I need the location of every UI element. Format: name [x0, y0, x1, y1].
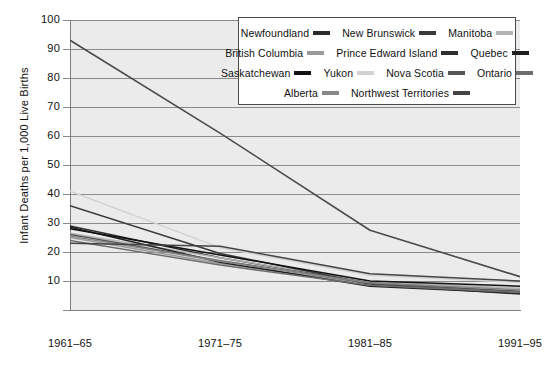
legend-color-swatch: [313, 31, 330, 35]
y-tick-label: 80: [26, 72, 60, 83]
legend-color-swatch: [322, 91, 339, 95]
legend-color-swatch: [496, 31, 513, 35]
y-tick-mark: [63, 107, 70, 108]
y-tick-mark: [63, 78, 70, 79]
y-tick: 100: [16, 14, 60, 25]
y-tick: 10: [16, 275, 60, 286]
legend-item-label: Yukon: [323, 68, 353, 79]
y-tick-mark: [63, 49, 70, 50]
y-tick-label: 50: [26, 159, 60, 170]
y-tick-mark: [63, 310, 70, 311]
legend-item: Alberta: [284, 88, 339, 99]
legend-color-swatch: [357, 71, 374, 75]
x-tick-label: 1981–85: [325, 338, 415, 349]
legend-item: Yukon: [323, 68, 374, 79]
legend-item-label: British Columbia: [225, 48, 303, 59]
legend-item: British Columbia: [225, 48, 324, 59]
legend-item-label: Newfoundland: [241, 28, 309, 39]
y-tick-mark: [63, 20, 70, 21]
legend-item-label: Alberta: [284, 88, 318, 99]
y-tick-label: 20: [26, 246, 60, 257]
x-tick-label: 1961–65: [25, 338, 115, 349]
y-tick-label: 100: [26, 14, 60, 25]
y-tick-mark: [63, 281, 70, 282]
legend-row: AlbertaNorthwest Territories: [246, 83, 508, 103]
y-tick-mark: [63, 165, 70, 166]
legend-item: Ontario: [477, 68, 533, 79]
legend-item-label: Prince Edward Island: [336, 48, 437, 59]
legend-item-label: Quebec: [470, 48, 507, 59]
legend-item: Northwest Territories: [351, 88, 470, 99]
legend-color-swatch: [453, 91, 470, 95]
chart-legend: NewfoundlandNew BrunswickManitobaBritish…: [238, 17, 516, 105]
y-axis-title: Infant Deaths per 1,000 Live Births: [19, 46, 30, 266]
infant-mortality-line-chart: 100908070605040302010 1961–651971–751981…: [0, 0, 551, 375]
legend-item: Prince Edward Island: [336, 48, 458, 59]
legend-item-label: Ontario: [477, 68, 512, 79]
y-tick-mark: [63, 223, 70, 224]
legend-item: Saskatchewan: [221, 68, 312, 79]
legend-color-swatch: [419, 31, 436, 35]
legend-item: Quebec: [470, 48, 528, 59]
legend-item-label: New Brunswick: [342, 28, 415, 39]
y-tick-label: 90: [26, 43, 60, 54]
y-tick-label: 60: [26, 130, 60, 141]
y-tick-label: 40: [26, 188, 60, 199]
legend-item-label: Saskatchewan: [221, 68, 291, 79]
legend-row: NewfoundlandNew BrunswickManitoba: [246, 23, 508, 43]
legend-item-label: Northwest Territories: [351, 88, 449, 99]
legend-row: SaskatchewanYukonNova ScotiaOntario: [246, 63, 508, 83]
y-tick-label: 70: [26, 101, 60, 112]
legend-color-swatch: [307, 51, 324, 55]
y-tick-label: 30: [26, 217, 60, 228]
legend-item-label: Manitoba: [448, 28, 492, 39]
legend-item: Newfoundland: [241, 28, 330, 39]
y-tick-mark: [63, 136, 70, 137]
y-tick-mark: [63, 252, 70, 253]
x-tick-label: 1991–95: [475, 338, 551, 349]
y-tick-mark: [63, 194, 70, 195]
legend-item: Manitoba: [448, 28, 513, 39]
legend-item: Nova Scotia: [386, 68, 465, 79]
legend-row: British ColumbiaPrince Edward IslandQueb…: [246, 43, 508, 63]
legend-color-swatch: [448, 71, 465, 75]
legend-color-swatch: [512, 51, 529, 55]
legend-color-swatch: [441, 51, 458, 55]
x-tick-label: 1971–75: [175, 338, 265, 349]
legend-item: New Brunswick: [342, 28, 436, 39]
y-tick-label: 10: [26, 275, 60, 286]
legend-item-label: Nova Scotia: [386, 68, 444, 79]
legend-color-swatch: [516, 71, 533, 75]
legend-color-swatch: [294, 71, 311, 75]
